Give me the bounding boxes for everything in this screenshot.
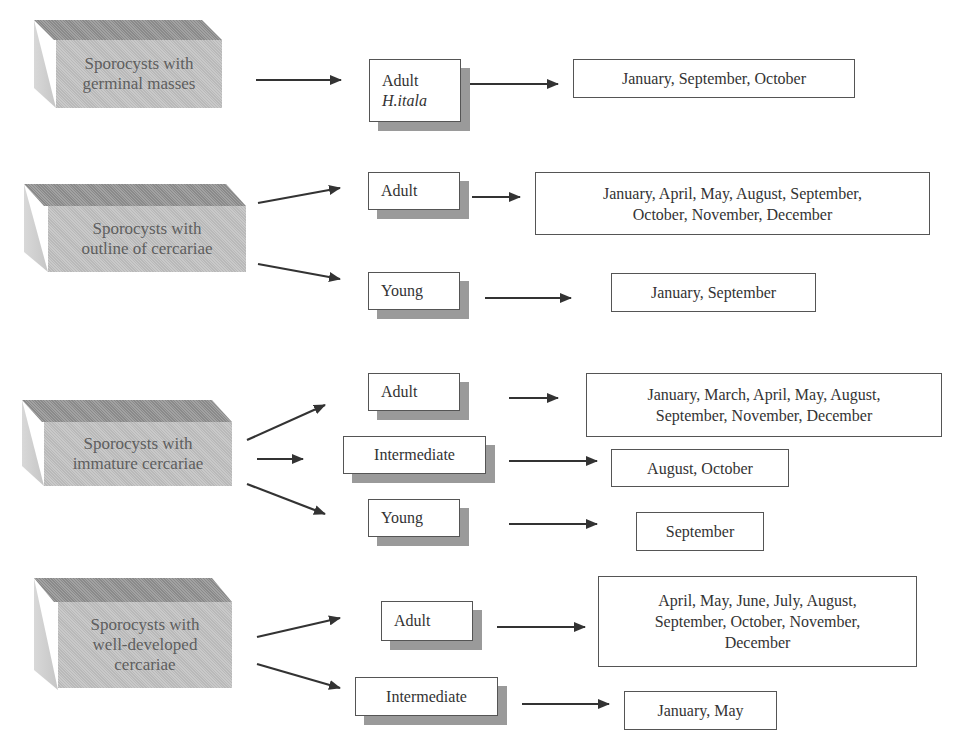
source-box-germinal-masses: Sporocysts with germinal masses (34, 20, 222, 108)
stage-label: Intermediate (374, 445, 455, 465)
months-box: August, October (611, 449, 789, 487)
stage-box-adult: Adult (368, 373, 460, 411)
stage-box-young: Young (368, 499, 460, 537)
stage-box-adult: Adult (381, 601, 473, 641)
stage-box-adult-h-itala: Adult H.itala (369, 59, 461, 122)
source-label: Sporocysts with well-developed cercariae (58, 602, 232, 688)
stage-label: Young (381, 281, 447, 301)
months-box: January, April, May, August, September, … (535, 172, 930, 235)
stage-label: Adult (381, 181, 447, 201)
stage-label: Adult (381, 382, 447, 402)
months-box: April, May, June, July, August, Septembe… (598, 576, 917, 667)
months-box: September (636, 512, 764, 551)
stage-label: Adult (394, 611, 460, 631)
stage-label: Young (381, 508, 447, 528)
source-label: Sporocysts with immature cercariae (44, 422, 232, 486)
source-box-immature-cercariae: Sporocysts with immature cercariae (22, 400, 232, 486)
stage-label: Adult (382, 71, 448, 91)
stage-box-young: Young (368, 272, 460, 310)
months-box: January, May (624, 691, 777, 730)
months-box: January, September, October (573, 59, 855, 98)
stage-box-adult: Adult (368, 172, 460, 210)
months-box: January, March, April, May, August, Sept… (586, 373, 942, 437)
source-box-well-developed-cercariae: Sporocysts with well-developed cercariae (34, 578, 232, 690)
stage-box-intermediate: Intermediate (355, 677, 498, 716)
stage-label: Intermediate (386, 687, 467, 707)
source-label: Sporocysts with outline of cercariae (48, 206, 246, 272)
source-label: Sporocysts with germinal masses (56, 40, 222, 108)
stage-box-intermediate: Intermediate (343, 436, 486, 474)
species-label: H.itala (382, 91, 448, 111)
months-box: January, September (611, 273, 816, 312)
source-box-outline-of-cercariae: Sporocysts with outline of cercariae (24, 184, 246, 272)
